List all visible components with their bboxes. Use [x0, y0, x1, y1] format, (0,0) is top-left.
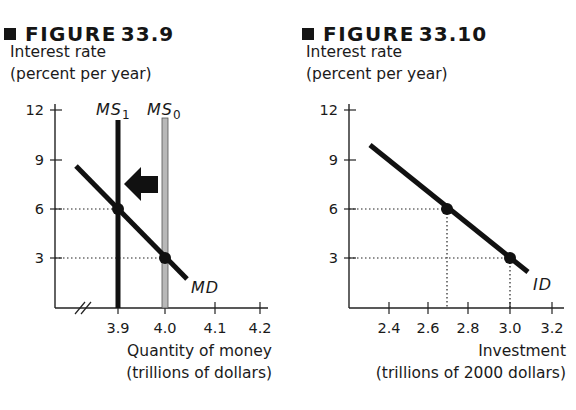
x-tick-4-1: 4.1 — [203, 320, 226, 336]
point-3-9-6 — [112, 203, 124, 215]
x-tick-2-6: 2.6 — [416, 320, 439, 336]
x-axis-label-line2: (trillions of dollars) — [126, 362, 272, 384]
x-tick-3-0: 3.0 — [498, 320, 521, 336]
y-tick-9: 9 — [35, 152, 44, 168]
x-tick-4-2: 4.2 — [248, 320, 271, 336]
y-tick-9: 9 — [329, 152, 338, 168]
y-ticks — [344, 110, 356, 258]
dotted-guides — [349, 209, 510, 308]
ms0-line — [162, 118, 168, 308]
x-tick-4-0: 4.0 — [153, 320, 176, 336]
y-tick-12: 12 — [26, 102, 44, 118]
point-3-0-3 — [504, 252, 516, 264]
ms0-label: MS0 — [147, 100, 182, 122]
shift-left-arrow-icon — [124, 167, 158, 201]
x-axis-label-line2: (trillions of 2000 dollars) — [376, 362, 566, 384]
y-tick-6: 6 — [35, 201, 44, 217]
id-label: ID — [533, 275, 552, 294]
x-axis-label: Investment (trillions of 2000 dollars) — [376, 340, 566, 384]
figure-33-10: FIGURE33.10 Interest rate (percent per y… — [288, 0, 576, 410]
y-tick-3: 3 — [329, 250, 338, 266]
ms1-label: MS1 — [96, 100, 131, 122]
md-label: MD — [191, 278, 219, 297]
y-tick-6: 6 — [329, 201, 338, 217]
y-tick-12: 12 — [320, 102, 338, 118]
x-tick-2-4: 2.4 — [377, 320, 400, 336]
x-tick-3-9: 3.9 — [106, 320, 129, 336]
x-tick-3-2: 3.2 — [540, 320, 563, 336]
x-axis-label-line1: Quantity of money — [126, 340, 272, 362]
point-4-0-3 — [159, 252, 171, 264]
x-axis-label-line1: Investment — [376, 340, 566, 362]
y-tick-3: 3 — [35, 250, 44, 266]
point-2-7-6 — [441, 203, 453, 215]
y-ticks — [50, 110, 62, 258]
x-axis-label: Quantity of money (trillions of dollars) — [126, 340, 272, 384]
figure-33-9: FIGURE33.9 Interest rate (percent per ye… — [0, 0, 288, 410]
x-tick-2-8: 2.8 — [456, 320, 479, 336]
